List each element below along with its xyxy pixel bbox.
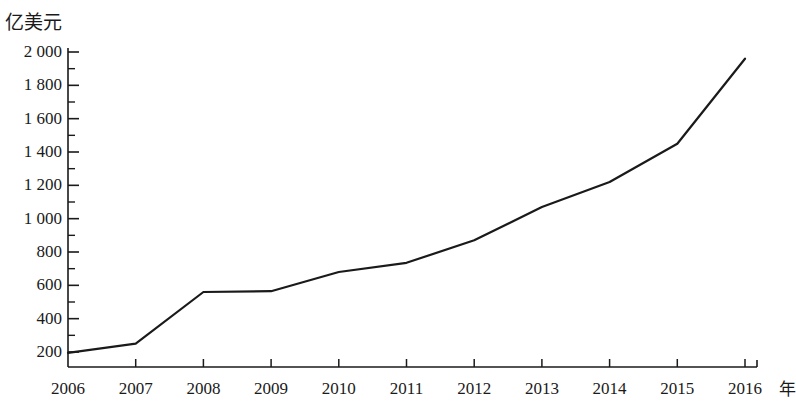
- x-axis-ticks: [136, 359, 745, 367]
- data-series-line: [68, 59, 745, 353]
- axis-lines: [68, 48, 757, 367]
- y-axis-minor-ticks: [68, 69, 75, 336]
